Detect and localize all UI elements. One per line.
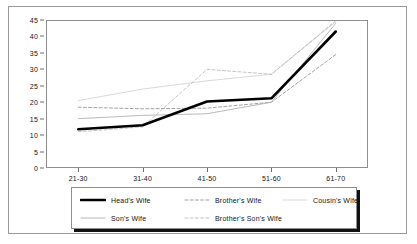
x-axis-tick-label: 51-60 <box>262 175 281 182</box>
y-axis-tick-mark <box>40 85 44 86</box>
x-axis-tick-mark <box>207 168 208 172</box>
x-axis-tick-label: 61-70 <box>326 175 345 182</box>
legend-item[interactable]: Son's Wife <box>80 210 146 226</box>
legend-item-label: Brother's Son's Wife <box>215 215 282 222</box>
y-axis-tick-label: 35 <box>30 49 38 56</box>
legend-line-swatch <box>80 213 106 223</box>
x-axis-tick-mark <box>271 168 272 172</box>
legend-line-swatch <box>80 195 106 205</box>
x-axis-tick-label: 21-30 <box>69 175 88 182</box>
legend-line-swatch <box>184 195 210 205</box>
y-axis-tick-label: 25 <box>30 82 38 89</box>
y-axis-tick-mark <box>40 20 44 21</box>
legend-line-swatch <box>184 213 210 223</box>
legend-item[interactable]: Brother's Son's Wife <box>184 210 282 226</box>
y-axis-tick-label: 10 <box>30 132 38 139</box>
legend-item[interactable]: Cousin's Wife <box>282 192 358 208</box>
series-line <box>78 32 336 130</box>
y-axis-tick-mark <box>40 118 44 119</box>
plot-wrapper <box>46 20 368 168</box>
x-axis-tick-label: 41-50 <box>198 175 217 182</box>
legend-item-label: Brother's Wife <box>215 197 262 204</box>
y-axis-tick-label: 40 <box>30 33 38 40</box>
x-axis-tick-mark <box>336 168 337 172</box>
legend-item-label: Cousin's Wife <box>313 197 358 204</box>
y-axis-tick-label: 30 <box>30 66 38 73</box>
y-axis-tick-mark <box>40 52 44 53</box>
y-axis-tick-label: 15 <box>30 115 38 122</box>
legend-item-label: Head's Wife <box>111 197 151 204</box>
x-axis: 21-3031-4041-5051-6061-70 <box>46 168 368 186</box>
y-axis-tick-mark <box>40 36 44 37</box>
y-axis-tick-label: 45 <box>30 17 38 24</box>
y-axis-tick-mark <box>40 168 44 169</box>
chart-legend: Head's WifeBrother's WifeCousin's WifeSo… <box>71 187 357 229</box>
series-layer <box>46 20 368 168</box>
legend-item[interactable]: Head's Wife <box>80 192 151 208</box>
y-axis-tick-mark <box>40 151 44 152</box>
legend-line-swatch <box>282 195 308 205</box>
x-axis-tick-label: 31-40 <box>133 175 152 182</box>
y-axis-tick-label: 0 <box>34 165 38 172</box>
y-axis-tick-mark <box>40 135 44 136</box>
chart-figure: 051015202530354045 21-3031-4041-5051-606… <box>0 0 417 244</box>
y-axis-tick-mark <box>40 102 44 103</box>
x-axis-tick-mark <box>143 168 144 172</box>
y-axis: 051015202530354045 <box>0 20 46 168</box>
legend-item[interactable]: Brother's Wife <box>184 192 262 208</box>
legend-row: Son's WifeBrother's Son's Wife <box>72 210 356 226</box>
y-axis-tick-label: 5 <box>34 148 38 155</box>
legend-item-label: Son's Wife <box>111 215 146 222</box>
x-axis-tick-mark <box>78 168 79 172</box>
series-line <box>78 21 336 132</box>
y-axis-tick-mark <box>40 69 44 70</box>
legend-row: Head's WifeBrother's WifeCousin's Wife <box>72 192 356 208</box>
series-line <box>78 22 336 101</box>
y-axis-tick-label: 20 <box>30 99 38 106</box>
